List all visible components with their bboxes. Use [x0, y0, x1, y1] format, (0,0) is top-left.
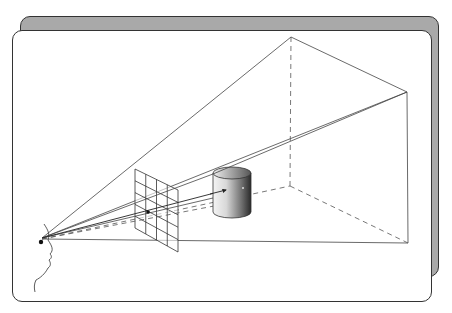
perspective-diagram	[0, 0, 452, 313]
projection-point	[146, 210, 150, 214]
ray-over-cylinder-top	[213, 92, 407, 174]
sight-ray-arrow	[42, 190, 226, 238]
sight-ray-dashed	[42, 206, 214, 239]
eye-icon	[39, 240, 43, 244]
viewer-profile-icon	[34, 224, 52, 292]
cylinder-object	[213, 167, 251, 218]
picture-plane-grid	[135, 169, 178, 252]
sight-rays	[42, 174, 213, 238]
